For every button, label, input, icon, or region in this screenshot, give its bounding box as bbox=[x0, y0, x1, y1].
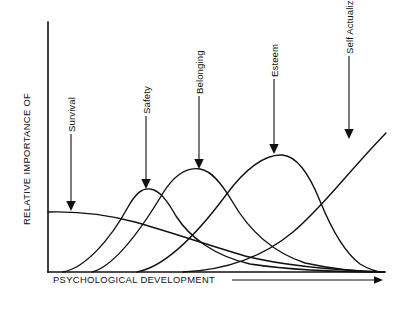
label-self-actualization: Self Actualization bbox=[344, 0, 355, 54]
development-direction-arrow bbox=[232, 276, 383, 284]
callout-self-actualization: Self Actualization bbox=[344, 0, 355, 139]
callout-belonging: Belonging bbox=[194, 50, 205, 169]
label-belonging: Belonging bbox=[194, 50, 205, 94]
curve-safety bbox=[63, 189, 384, 272]
diagram-canvas: RELATIVE IMPORTANCE OF PSYCHOLOGICAL DEV… bbox=[0, 0, 406, 309]
x-axis-label: PSYCHOLOGICAL DEVELOPMENT bbox=[53, 274, 215, 285]
label-esteem: Esteem bbox=[269, 44, 280, 77]
callout-esteem: Esteem bbox=[269, 44, 280, 154]
axes-group bbox=[48, 22, 385, 272]
label-survival: Survival bbox=[66, 97, 77, 132]
needs-curve-diagram: RELATIVE IMPORTANCE OF PSYCHOLOGICAL DEV… bbox=[0, 0, 406, 309]
callout-safety: Safety bbox=[141, 86, 152, 189]
curve-survival bbox=[48, 212, 384, 272]
curve-self-actualization bbox=[183, 133, 386, 272]
y-axis-label: RELATIVE IMPORTANCE OF bbox=[21, 93, 32, 225]
label-safety: Safety bbox=[141, 86, 152, 114]
callout-survival: Survival bbox=[66, 97, 77, 211]
